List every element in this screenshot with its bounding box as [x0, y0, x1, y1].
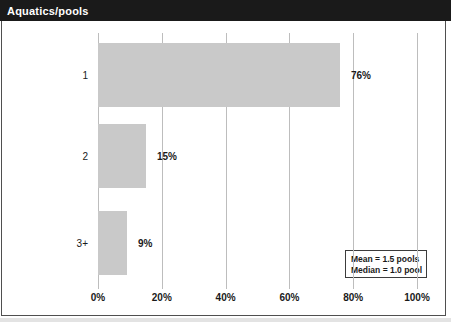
x-axis-tick-label: 20%	[140, 292, 184, 303]
x-axis-tick-label: 60%	[267, 292, 311, 303]
category-label: 1	[2, 43, 88, 107]
legend-mean-label: Mean = 1.5 pools	[351, 254, 421, 265]
x-axis-tick-label: 0%	[76, 292, 120, 303]
legend-box: Mean = 1.5 pools Median = 1.0 pool	[345, 250, 427, 278]
report-chart-panel: Aquatics/pools Mean = 1.5 pools Median =…	[0, 0, 451, 322]
category-label: 2	[2, 124, 88, 188]
chart-title-bar: Aquatics/pools	[0, 0, 451, 21]
category-label: 3+	[2, 211, 88, 275]
bar-value-label: 76%	[351, 43, 371, 107]
bar	[98, 211, 127, 275]
x-axis-tick-label: 40%	[204, 292, 248, 303]
gridline	[417, 33, 418, 289]
bar-value-label: 9%	[138, 211, 152, 275]
legend-median-label: Median = 1.0 pool	[351, 265, 421, 276]
chart-title: Aquatics/pools	[7, 5, 89, 17]
bar-value-label: 15%	[157, 124, 177, 188]
x-axis-tick-label: 80%	[331, 292, 375, 303]
x-axis-tick-label: 100%	[395, 292, 439, 303]
bar	[98, 43, 340, 107]
plot-area: Mean = 1.5 pools Median = 1.0 pool 0%20%…	[1, 21, 446, 316]
panel-bottom-shadow	[0, 318, 451, 322]
bar	[98, 124, 146, 188]
